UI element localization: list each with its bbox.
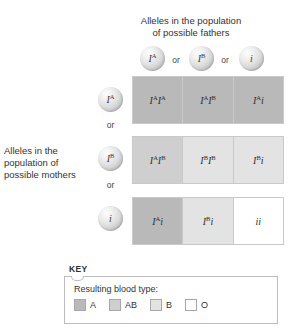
mother-allele-i-glyph: i: [109, 213, 112, 224]
punnett-cell-IBIB[interactable]: IBIB: [182, 136, 233, 184]
key-item-O: O: [185, 299, 208, 311]
mother-caption-line-1: Alleles in the: [4, 145, 96, 157]
key-legend: KEY Resulting blood type: A AB B: [64, 264, 278, 324]
punnett-cell-ii[interactable]: ii: [233, 197, 284, 245]
key-swatch-AB-icon: [109, 299, 121, 311]
genotype-IBi-row2: IBi: [253, 155, 263, 166]
punnett-row-IB: IAIB IBIB IBi: [132, 136, 284, 184]
key-item-A: A: [74, 299, 96, 311]
key-item-AB: AB: [109, 299, 137, 311]
mother-allele-IA-glyph: IA: [106, 94, 114, 105]
genotype-IAi-row3: IAi: [152, 216, 163, 227]
key-swatch-O-icon: [185, 299, 197, 311]
punnett-square-diagram: Alleles in the population of possible fa…: [0, 0, 291, 329]
father-caption-line-1: Alleles in the population: [108, 15, 274, 27]
genotype-IBIB: IBIB: [200, 155, 215, 166]
key-notch: [71, 276, 84, 281]
punnett-row-IA: IAIA IAIB IAi: [132, 76, 284, 124]
genotype-IAi-row1: IAi: [253, 95, 264, 106]
punnett-cell-IAIB-row2[interactable]: IAIB: [132, 136, 183, 184]
father-allele-IA-glyph: IA: [148, 53, 156, 64]
mother-or-separator-2: or: [98, 180, 123, 190]
punnett-cell-IAIA[interactable]: IAIA: [132, 76, 183, 124]
punnett-cell-IBi-row3[interactable]: IBi: [182, 197, 233, 245]
key-swatch-A-icon: [74, 299, 86, 311]
genotype-IBi-row3: IBi: [203, 216, 213, 227]
mother-or-separator-1: or: [98, 120, 123, 130]
punnett-cell-IBi-row2[interactable]: IBi: [233, 136, 284, 184]
father-or-separator-2: or: [217, 55, 233, 65]
mother-allele-IB-glyph: IB: [107, 153, 115, 164]
father-allele-i-glyph: i: [250, 53, 253, 64]
punnett-cell-IAi-row3[interactable]: IAi: [132, 197, 183, 245]
genotype-IAIA: IAIA: [150, 95, 166, 106]
father-allele-sphere-i: i: [239, 46, 264, 71]
key-item-B-label: B: [166, 300, 172, 310]
key-item-AB-label: AB: [125, 300, 137, 310]
father-allele-IB-glyph: IB: [198, 53, 206, 64]
key-box: Resulting blood type: A AB B O: [64, 276, 278, 324]
mother-allele-sphere-i: i: [98, 206, 123, 231]
punnett-row-i: IAi IBi ii: [132, 197, 284, 245]
father-or-separator-1: or: [168, 55, 184, 65]
genotype-ii: ii: [256, 216, 262, 227]
mother-allele-sphere-IA: IA: [98, 87, 123, 112]
key-item-A-label: A: [90, 300, 96, 310]
mother-alleles-caption: Alleles in the population of possible mo…: [4, 145, 96, 181]
mother-caption-line-2: population of: [4, 157, 96, 169]
punnett-cell-IAi-row1[interactable]: IAi: [233, 76, 284, 124]
genotype-IAIB-row1: IAIB: [200, 95, 216, 106]
key-swatch-B-icon: [150, 299, 162, 311]
key-label: Resulting blood type:: [74, 284, 269, 294]
mother-caption-line-3: possible mothers: [4, 169, 96, 181]
father-alleles-caption: Alleles in the population of possible fa…: [108, 15, 274, 39]
punnett-cell-IAIB-row1[interactable]: IAIB: [182, 76, 233, 124]
mother-allele-sphere-IB: IB: [98, 146, 123, 171]
genotype-IAIB-row2: IAIB: [150, 155, 166, 166]
key-title: KEY: [69, 264, 278, 274]
key-item-B: B: [150, 299, 172, 311]
key-item-O-label: O: [201, 300, 208, 310]
father-allele-sphere-IA: IA: [140, 46, 165, 71]
father-allele-sphere-IB: IB: [189, 46, 214, 71]
key-items: A AB B O: [74, 299, 269, 311]
father-caption-line-2: of possible fathers: [108, 27, 274, 39]
